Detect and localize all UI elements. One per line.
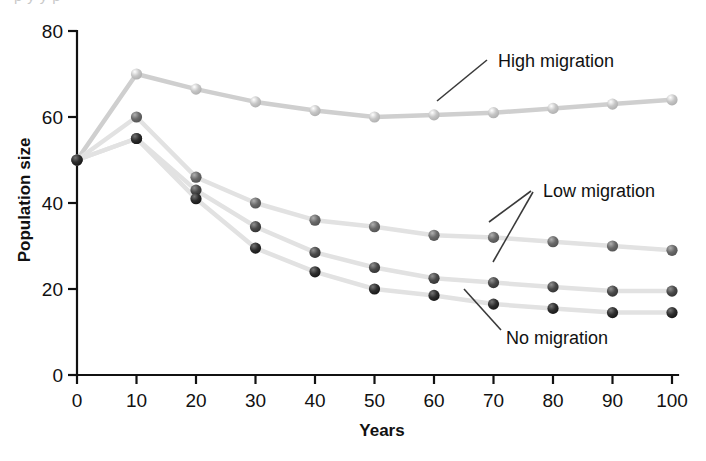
population-size-line-chart: 020406080 0102030405060708090100 Populat… (0, 0, 706, 461)
data-point (369, 262, 380, 273)
data-point (369, 221, 380, 232)
leader-low-migration-lower (493, 192, 533, 262)
data-point (250, 243, 261, 254)
y-tick-label: 20 (42, 279, 63, 300)
x-axis-tick-labels: 0102030405060708090100 (72, 390, 688, 411)
y-tick-label: 0 (52, 365, 63, 386)
x-axis-ticks (77, 375, 672, 384)
data-point (666, 94, 677, 105)
x-tick-label: 0 (72, 390, 83, 411)
leader-high-migration (437, 60, 487, 101)
data-point (547, 303, 558, 314)
y-axis-ticks (68, 31, 77, 375)
data-point (488, 107, 499, 118)
y-tick-label: 60 (42, 107, 63, 128)
data-point (369, 111, 380, 122)
data-point (488, 299, 499, 310)
x-tick-label: 10 (126, 390, 147, 411)
data-point (666, 286, 677, 297)
data-point (547, 281, 558, 292)
data-point (428, 273, 439, 284)
x-tick-label: 20 (185, 390, 206, 411)
data-point (131, 133, 142, 144)
data-point (190, 172, 201, 183)
x-axis-title: Years (359, 421, 404, 440)
data-point (309, 266, 320, 277)
data-point (666, 307, 677, 318)
data-point (369, 283, 380, 294)
series-markers-3 (71, 133, 677, 297)
y-axis-tick-labels: 020406080 (42, 21, 63, 386)
data-point (428, 109, 439, 120)
data-point (309, 215, 320, 226)
annotation-low-migration: Low migration (543, 181, 655, 201)
data-point (488, 277, 499, 288)
data-point (607, 286, 618, 297)
data-point (547, 236, 558, 247)
data-point (666, 245, 677, 256)
y-tick-label: 40 (42, 193, 63, 214)
figure-container: p y y p 020406080 0102030405060708090100… (0, 0, 706, 461)
data-point (250, 197, 261, 208)
data-point (547, 103, 558, 114)
data-point (607, 240, 618, 251)
x-tick-label: 60 (423, 390, 444, 411)
data-point (607, 307, 618, 318)
series-markers-1 (71, 68, 677, 165)
annotation-leader-lines (437, 60, 533, 330)
data-point (309, 105, 320, 116)
annotation-high-migration: High migration (498, 51, 614, 71)
leader-no-migration (464, 289, 501, 330)
x-tick-label: 70 (483, 390, 504, 411)
x-tick-label: 80 (542, 390, 563, 411)
data-point (71, 154, 82, 165)
data-point (428, 230, 439, 241)
x-tick-label: 90 (602, 390, 623, 411)
data-point (309, 247, 320, 258)
data-point (488, 232, 499, 243)
x-tick-label: 40 (304, 390, 325, 411)
data-point (190, 193, 201, 204)
x-tick-label: 100 (656, 390, 688, 411)
x-tick-label: 30 (245, 390, 266, 411)
data-point (131, 68, 142, 79)
data-point (250, 221, 261, 232)
data-point (190, 84, 201, 95)
data-point (428, 290, 439, 301)
x-tick-label: 50 (364, 390, 385, 411)
annotation-no-migration: No migration (506, 328, 608, 348)
data-point (607, 99, 618, 110)
y-axis-title: Population size (15, 138, 34, 263)
y-tick-label: 80 (42, 21, 63, 42)
data-point (131, 111, 142, 122)
data-point (250, 96, 261, 107)
